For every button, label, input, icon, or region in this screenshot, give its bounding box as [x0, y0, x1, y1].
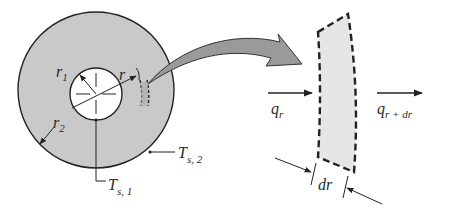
cylinder-cross-section — [18, 12, 175, 181]
qr-label: qr — [271, 100, 284, 120]
r-label: r — [119, 66, 126, 83]
ts2-label: Ts, 2 — [178, 144, 203, 165]
qr-dr-label: qr + dr — [377, 100, 413, 120]
differential-element — [318, 14, 356, 172]
dr-label: dr — [318, 176, 333, 193]
hollow-cylinder-diagram: r1 r r2 Ts, 2 Ts, 1 qr qr + dr dr — [0, 0, 449, 211]
ts1-label: Ts, 1 — [108, 176, 132, 197]
